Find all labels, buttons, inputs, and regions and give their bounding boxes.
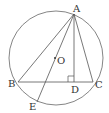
right-angle-mark-d <box>68 76 74 82</box>
segment-ab <box>18 14 74 82</box>
label-a: A <box>72 3 81 14</box>
label-e: E <box>29 101 36 112</box>
geometry-diagram: A B C D E O <box>0 0 109 113</box>
label-b: B <box>8 78 15 89</box>
label-d: D <box>71 84 79 95</box>
label-o: O <box>57 55 65 66</box>
center-point-o <box>54 57 56 59</box>
label-c: C <box>95 79 103 90</box>
segment-ac <box>74 14 93 82</box>
